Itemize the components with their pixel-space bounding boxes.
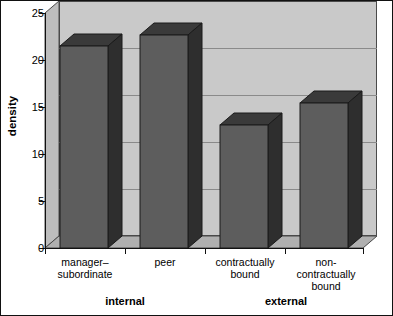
bar-contractually-bound	[220, 125, 268, 248]
x-tick-mark-1	[125, 248, 126, 254]
bar-manager-subordinate	[60, 46, 108, 248]
x-axis-line	[45, 248, 363, 249]
group-label-internal: internal	[85, 295, 165, 307]
x-tick-mark-2	[205, 248, 206, 254]
x-category-label-non-contractually-bound: non- contractually bound	[283, 256, 369, 292]
x-tick-mark-3	[285, 248, 286, 254]
y-axis-line	[45, 13, 46, 249]
group-label-external: external	[243, 295, 329, 307]
bar-non-contractually-bound	[300, 103, 348, 248]
x-tick-mark-4	[363, 248, 364, 254]
bar-chart: 25 20 15 10 5 0 density manager– subordi…	[0, 0, 393, 316]
y-axis-title: density	[6, 86, 18, 146]
y-tick-label-20: 20	[32, 55, 44, 66]
y-tick-label-15: 15	[32, 102, 44, 113]
y-tick-label-0: 0	[38, 243, 44, 254]
y-tick-label-10: 10	[32, 149, 44, 160]
bar-peer	[140, 35, 188, 248]
y-tick-label-5: 5	[38, 196, 44, 207]
x-category-label-peer: peer	[125, 256, 205, 268]
x-category-label-manager-subordinate: manager– subordinate	[45, 256, 125, 280]
x-category-label-contractually-bound: contractually bound	[203, 256, 287, 280]
plot-area	[45, 13, 363, 248]
x-tick-mark-0	[45, 248, 46, 254]
y-tick-label-25: 25	[32, 8, 44, 19]
